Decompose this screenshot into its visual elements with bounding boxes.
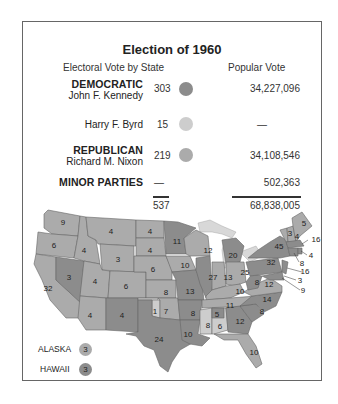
svg-text:25: 25 [241,268,250,277]
svg-text:45: 45 [275,242,284,251]
svg-text:9: 9 [61,218,66,227]
svg-text:16: 16 [312,235,321,244]
svg-text:11: 11 [226,301,235,310]
svg-text:10: 10 [181,261,190,270]
svg-text:12: 12 [265,280,274,289]
svg-text:6: 6 [124,282,129,291]
svg-text:1: 1 [153,307,158,316]
svg-text:5: 5 [302,219,307,228]
svg-text:10: 10 [236,287,245,296]
svg-text:27: 27 [209,273,218,282]
svg-text:3: 3 [298,276,303,285]
svg-text:12: 12 [236,317,245,326]
svg-text:9: 9 [301,286,306,295]
svg-text:11: 11 [173,237,182,246]
svg-text:8: 8 [164,288,169,297]
svg-text:3: 3 [288,229,293,238]
svg-text:4: 4 [148,227,153,236]
svg-text:4: 4 [309,251,314,260]
svg-text:10: 10 [250,348,259,357]
svg-text:16: 16 [301,267,310,276]
svg-text:4: 4 [82,246,87,255]
state-ct [288,248,298,256]
svg-text:4: 4 [93,277,98,286]
hawaii-label: HAWAII [40,364,70,374]
states [34,210,312,372]
svg-text:6: 6 [151,265,156,274]
alaska-votes: 3 [79,343,92,356]
svg-text:7: 7 [164,307,169,316]
svg-text:8: 8 [206,321,211,330]
svg-text:3: 3 [116,255,121,264]
state-ks [146,280,176,298]
svg-text:20: 20 [229,251,238,260]
svg-text:14: 14 [263,295,272,304]
svg-text:5: 5 [215,310,220,319]
state-nj [282,260,288,274]
svg-text:8: 8 [255,278,260,287]
svg-text:13: 13 [224,273,233,282]
svg-text:4: 4 [88,311,93,320]
svg-text:4: 4 [148,246,153,255]
svg-text:6: 6 [52,241,57,250]
svg-text:6: 6 [218,322,223,331]
svg-text:24: 24 [155,335,164,344]
svg-text:12: 12 [204,246,213,255]
state-ok [158,298,180,320]
svg-text:32: 32 [44,284,53,293]
svg-text:8: 8 [260,307,265,316]
svg-text:4: 4 [109,227,114,236]
svg-text:8: 8 [191,309,196,318]
hawaii-votes: 3 [79,363,92,376]
svg-text:3: 3 [67,273,72,282]
svg-text:13: 13 [186,287,195,296]
svg-text:4: 4 [120,311,125,320]
state-or [36,232,78,258]
svg-text:32: 32 [267,258,276,267]
alaska-label: ALASKA [38,344,71,354]
svg-text:10: 10 [184,330,193,339]
svg-text:4: 4 [295,232,300,241]
